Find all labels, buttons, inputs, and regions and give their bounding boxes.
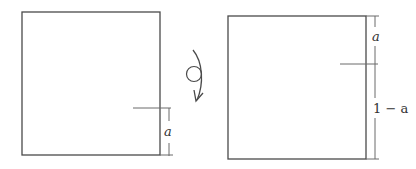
right-square-group: a 1 − a [228, 16, 408, 159]
rotate-clockwise-arrow-icon [187, 50, 204, 101]
left-square [22, 12, 160, 155]
right-square [228, 16, 366, 159]
left-dimension-label: a [164, 124, 172, 139]
left-square-group: a [22, 12, 173, 156]
square-rotation-diagram: a a 1 − a [0, 0, 416, 169]
right-bottom-segment-label: 1 − a [373, 101, 408, 116]
rotation-axis-circle [187, 67, 202, 82]
right-top-segment-label: a [372, 29, 380, 44]
